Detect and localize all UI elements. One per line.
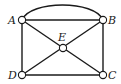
label-a: A <box>7 14 16 27</box>
label-d: D <box>7 69 17 82</box>
edge-a-b-arc <box>22 5 103 20</box>
node-d <box>18 71 25 78</box>
label-b: B <box>107 14 116 27</box>
node-b <box>99 16 106 23</box>
node-e <box>59 44 66 51</box>
label-e: E <box>57 31 66 44</box>
label-c: C <box>108 69 117 82</box>
node-c <box>99 71 106 78</box>
graph-diagram: A B C D E <box>0 0 121 84</box>
node-a <box>18 16 25 23</box>
